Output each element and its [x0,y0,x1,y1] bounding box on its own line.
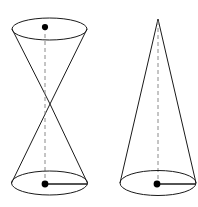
double-cone-top-center-dot [42,24,48,30]
figure-background [0,0,198,207]
cone-geometry-figure [0,0,198,207]
double-cone-base-center-dot [42,181,49,188]
single-cone-base-center-dot [154,181,161,188]
